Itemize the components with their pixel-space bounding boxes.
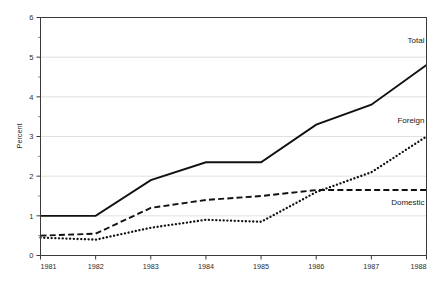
y-tick-label: 0	[29, 251, 33, 260]
x-tick-label: 1982	[88, 262, 104, 271]
y-tick-label: 1	[29, 212, 33, 221]
y-tick-label: 3	[29, 132, 33, 141]
y-tick-label: 4	[29, 93, 33, 102]
x-tick-label: 1988	[411, 262, 427, 271]
x-tick-label: 1983	[143, 262, 159, 271]
x-tick-label: 1981	[41, 262, 57, 271]
x-tick-label: 1987	[363, 262, 379, 271]
y-tick-label: 6	[29, 13, 33, 22]
series-label-domestic: Domestic	[391, 198, 424, 207]
series-label-foreign: Foreign	[397, 116, 424, 125]
y-axis-title: Percent	[15, 124, 24, 149]
line-chart: 0123456 19811982198319841985198619871988…	[0, 0, 441, 289]
y-tick-label: 5	[29, 53, 33, 62]
x-tick-label: 1984	[198, 262, 214, 271]
chart-background	[0, 0, 441, 289]
chart-figure: 0123456 19811982198319841985198619871988…	[0, 0, 441, 289]
x-tick-label: 1986	[308, 262, 324, 271]
y-tick-label: 2	[29, 172, 33, 181]
series-label-total: Total	[408, 36, 425, 45]
x-tick-label: 1985	[253, 262, 269, 271]
